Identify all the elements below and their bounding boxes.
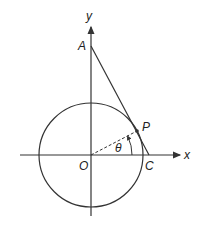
angle-theta-label: θ: [115, 141, 122, 155]
point-A-label: A: [77, 39, 86, 53]
tangent-line-AC: [91, 46, 149, 155]
point-C-label: C: [145, 159, 154, 173]
angle-theta-arc: [128, 137, 132, 155]
x-axis-label: x: [183, 148, 191, 162]
point-P-label: P: [142, 120, 150, 134]
diagram-canvas: y x A P O C θ: [0, 0, 202, 229]
point-O-label: O: [79, 159, 88, 173]
y-axis-label: y: [85, 9, 93, 23]
point-P-marker: [135, 129, 139, 133]
